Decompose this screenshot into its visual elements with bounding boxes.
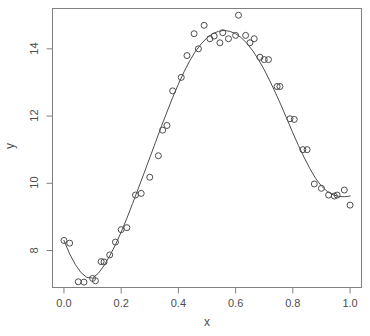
data-point	[201, 22, 207, 28]
data-point	[147, 174, 153, 180]
data-point	[291, 116, 297, 122]
y-axis-ticks	[47, 49, 53, 251]
chart-figure: 0.00.20.40.60.81.0 8101214 x y	[0, 0, 370, 336]
y-tick-label: 8	[28, 241, 39, 259]
data-point	[81, 279, 87, 285]
y-tick-label: 12	[28, 107, 39, 125]
data-point	[138, 190, 144, 196]
x-axis-ticks	[64, 288, 350, 294]
y-tick-label: 14	[28, 39, 39, 57]
data-point	[304, 147, 310, 153]
x-axis-title: x	[204, 316, 210, 328]
plot-border	[53, 9, 362, 288]
x-tick-label: 0.0	[56, 298, 71, 309]
data-point	[191, 31, 197, 37]
y-tick-label: 10	[28, 174, 39, 192]
data-point	[225, 36, 231, 42]
data-point	[341, 187, 347, 193]
data-point	[266, 57, 272, 63]
fitted-curve	[64, 30, 350, 278]
x-tick-label: 0.8	[285, 298, 300, 309]
x-tick-label: 0.4	[171, 298, 186, 309]
data-point	[155, 153, 161, 159]
data-point	[217, 40, 223, 46]
data-point	[164, 122, 170, 128]
data-point	[124, 225, 130, 231]
data-point	[75, 279, 81, 285]
x-tick-label: 0.6	[228, 298, 243, 309]
x-tick-label: 0.2	[114, 298, 129, 309]
scatter-plot-canvas	[0, 0, 370, 336]
data-point	[251, 36, 257, 42]
x-tick-label: 1.0	[342, 298, 357, 309]
data-point	[326, 192, 332, 198]
data-point	[243, 32, 249, 38]
y-axis-title: y	[4, 143, 16, 149]
data-point	[67, 240, 73, 246]
data-point	[170, 88, 176, 94]
plot-box	[53, 9, 362, 288]
data-point	[184, 53, 190, 59]
data-point	[235, 12, 241, 18]
data-point	[311, 181, 317, 187]
data-point	[347, 202, 353, 208]
data-point-group	[61, 12, 353, 285]
